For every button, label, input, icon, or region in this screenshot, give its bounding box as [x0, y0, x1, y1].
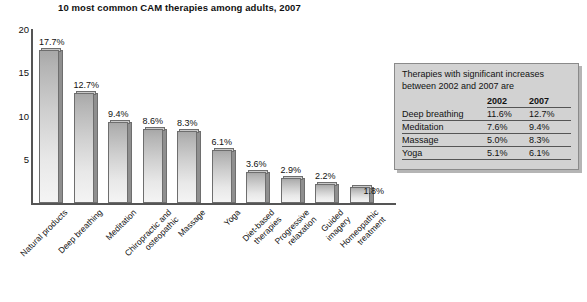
bar — [177, 125, 197, 203]
bar-front-face — [315, 184, 335, 203]
bar — [108, 116, 128, 203]
bar-value-label: 9.4% — [108, 109, 129, 119]
y-tick-label: 5 — [3, 154, 29, 165]
y-tick-label: 10 — [3, 111, 29, 122]
bar-front-face — [212, 150, 232, 203]
therapy-name: Yoga — [402, 147, 487, 160]
chart-root: 10 most common CAM therapies among adult… — [0, 0, 587, 302]
value-2002: 11.6% — [487, 108, 529, 121]
bar-value-label: 8.3% — [177, 118, 198, 128]
bar-value-label: 8.6% — [143, 116, 164, 126]
y-axis-ticks: 5101520 — [0, 20, 29, 205]
therapy-name: Deep breathing — [402, 108, 487, 121]
table-row: Massage5.0%8.3% — [402, 134, 571, 147]
bar-front-face — [39, 50, 59, 203]
inset-table-panel: Therapies with significant increases bet… — [394, 63, 579, 170]
bar-value-label: 2.2% — [315, 171, 336, 181]
bar-front-face — [74, 93, 94, 203]
table-row: Deep breathing11.6%12.7% — [402, 108, 571, 121]
inset-caption: Therapies with significant increases bet… — [402, 69, 571, 92]
bar — [246, 166, 266, 203]
value-2007: 8.3% — [529, 134, 571, 147]
x-axis-category-labels: Natural productsDeep breathingMeditation… — [31, 206, 411, 302]
table-row: Yoga5.1%6.1% — [402, 147, 571, 160]
value-2007: 6.1% — [529, 147, 571, 160]
bar-value-label: 2.9% — [281, 165, 302, 175]
table-header-2007: 2007 — [529, 96, 571, 108]
value-2007: 9.4% — [529, 121, 571, 134]
therapy-name: Massage — [402, 134, 487, 147]
bar-series: 17.7%12.7%9.4%8.6%8.3%6.1%3.6%2.9%2.2%1.… — [31, 20, 396, 205]
bar-front-face — [281, 178, 301, 203]
bar-front-face — [246, 172, 266, 203]
bar-value-label: 6.1% — [212, 137, 233, 147]
value-2002: 5.0% — [487, 134, 529, 147]
y-tick-label: 15 — [3, 67, 29, 78]
bar-value-label: 17.7% — [39, 37, 65, 47]
value-2002: 5.1% — [487, 147, 529, 160]
significant-increases-table: 2002 2007 Deep breathing11.6%12.7%Medita… — [402, 96, 571, 160]
bar-front-face — [108, 122, 128, 203]
chart-title: 10 most common CAM therapies among adult… — [58, 2, 301, 13]
value-2007: 12.7% — [529, 108, 571, 121]
bar-value-label: 1.8% — [364, 186, 385, 196]
value-2002: 7.6% — [487, 121, 529, 134]
bar-value-label: 3.6% — [246, 159, 267, 169]
plot-area: 5101520 17.7%12.7%9.4%8.6%8.3%6.1%3.6%2.… — [0, 20, 400, 210]
bar — [281, 172, 301, 203]
table-row: Meditation7.6%9.4% — [402, 121, 571, 134]
bar — [74, 87, 94, 203]
bar — [315, 178, 335, 203]
bar-value-label: 12.7% — [74, 80, 100, 90]
table-header-2002: 2002 — [487, 96, 529, 108]
therapy-name: Meditation — [402, 121, 487, 134]
table-header-row: 2002 2007 — [402, 96, 571, 108]
bar — [39, 44, 59, 203]
table-header-therapy — [402, 96, 487, 108]
bar — [143, 123, 163, 203]
bar — [212, 144, 232, 203]
bar-front-face — [143, 129, 163, 203]
bar-front-face — [177, 131, 197, 203]
y-tick-label: 20 — [3, 24, 29, 35]
